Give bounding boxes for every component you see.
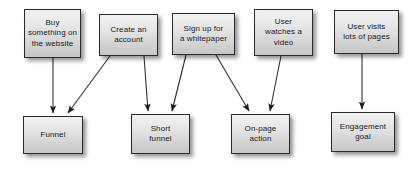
- node-video[interactable]: User watches a video: [254, 9, 313, 56]
- node-funnel[interactable]: Funnel: [23, 116, 83, 154]
- edge-video-to-on-page-action: [270, 56, 281, 111]
- node-label-on-page-action: On-page action: [243, 124, 279, 145]
- edges-group: [53, 54, 362, 113]
- node-whitepaper[interactable]: Sign up for a whitepaper: [172, 13, 235, 55]
- node-label-engagement-goal: Engagement goal: [338, 122, 388, 143]
- edge-create-account-to-funnel: [68, 56, 110, 113]
- node-label-video: User watches a video: [263, 17, 304, 49]
- edge-create-account-to-short-funnel: [144, 56, 148, 111]
- node-label-buy: Buy something on the website: [26, 18, 79, 50]
- node-label-funnel: Funnel: [38, 130, 67, 141]
- node-create-account[interactable]: Create an account: [99, 14, 158, 56]
- node-on-page-action[interactable]: On-page action: [231, 114, 290, 154]
- node-label-short-funnel: Short funnel: [147, 124, 173, 145]
- node-label-pages: User visits lots of pages: [341, 22, 392, 43]
- node-label-whitepaper: Sign up for a whitepaper: [178, 24, 229, 45]
- node-label-create-account: Create an account: [108, 25, 148, 46]
- edge-whitepaper-to-short-funnel: [172, 55, 186, 111]
- edge-whitepaper-to-on-page-action: [216, 55, 249, 111]
- node-buy[interactable]: Buy something on the website: [24, 9, 81, 58]
- node-engagement-goal[interactable]: Engagement goal: [331, 112, 395, 152]
- node-pages[interactable]: User visits lots of pages: [334, 10, 399, 54]
- node-short-funnel[interactable]: Short funnel: [131, 114, 190, 154]
- flowchart-diagram: Buy something on the websiteCreate an ac…: [0, 0, 412, 172]
